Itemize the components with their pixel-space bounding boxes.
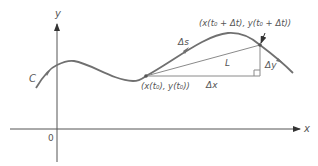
pointer-arrow xyxy=(261,33,265,43)
point-end-label: (x(t₀ + Δt), y(t₀ + Δt)) xyxy=(199,18,291,28)
curve-c xyxy=(36,33,293,88)
arc-length-diagram: y x 0 C Δs L Δx Δy (x(t₀), y(t₀)) (x(t₀ … xyxy=(0,0,318,166)
origin-label: 0 xyxy=(48,133,54,143)
right-angle-marker xyxy=(254,70,260,76)
y-axis-label: y xyxy=(54,8,62,19)
delta-x-label: Δx xyxy=(205,80,218,90)
chord-label: L xyxy=(225,58,230,68)
x-axis-label: x xyxy=(303,123,310,134)
point-end-marker xyxy=(258,43,262,47)
curve-label: C xyxy=(29,73,36,84)
chord-line xyxy=(146,45,260,76)
point-start-label: (x(t₀), y(t₀)) xyxy=(141,81,190,91)
arc-label: Δs xyxy=(177,37,189,47)
point-start-marker xyxy=(144,74,148,78)
delta-y-label: Δy xyxy=(264,60,277,70)
